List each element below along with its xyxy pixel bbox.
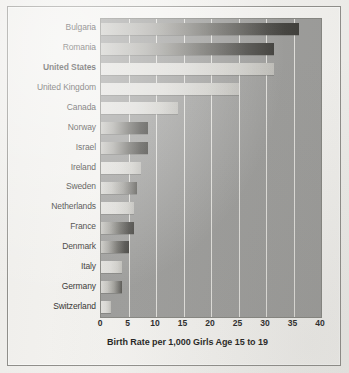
figure-page: BulgariaRomaniaUnited StatesUnited Kingd… [0,0,349,373]
category-label: Israel [0,143,96,152]
bar-row [101,281,122,293]
x-tick-label: 35 [288,319,297,328]
x-tick-label: 10 [150,319,159,328]
bar-row [101,182,137,194]
category-label: Germany [0,282,96,291]
bar-row [101,102,178,114]
x-tick-label: 20 [205,319,214,328]
x-tick-label: 15 [178,319,187,328]
category-label: Ireland [0,163,96,172]
bar-row [101,241,129,253]
bar-row [101,23,299,35]
x-tick-label: 30 [260,319,269,328]
bar [101,301,111,313]
bar-row [101,83,239,95]
category-label: Switzerland [0,302,96,311]
bar [101,83,239,95]
bar-series [101,19,321,317]
category-label: Bulgaria [0,23,96,32]
bar-row [101,162,141,174]
category-label: Norway [0,123,96,132]
bar-row [101,43,274,55]
bar [101,43,274,55]
category-label: Denmark [0,242,96,251]
category-label: United States [0,63,96,72]
bar-chart: BulgariaRomaniaUnited StatesUnited Kingd… [0,0,349,373]
category-label: United Kingdom [0,83,96,92]
bar [101,202,134,214]
category-label: Italy [0,262,96,271]
x-axis-title: Birth Rate per 1,000 Girls Age 15 to 19 [0,337,349,347]
plot-area [100,18,322,318]
bar [101,23,299,35]
x-tick-label: 0 [98,319,103,328]
bar [101,122,148,134]
category-label: Romania [0,43,96,52]
x-tick-label: 5 [125,319,130,328]
bar [101,182,137,194]
bar [101,222,134,234]
bar-row [101,142,148,154]
bar [101,281,122,293]
bar-row [101,63,274,75]
bar-row [101,301,111,313]
bar-row [101,202,134,214]
category-axis-labels: BulgariaRomaniaUnited StatesUnited Kingd… [0,18,96,316]
bar [101,102,178,114]
x-tick-label: 25 [233,319,242,328]
category-label: Netherlands [0,202,96,211]
category-label: Canada [0,103,96,112]
bar [101,162,141,174]
x-tick-label: 40 [315,319,324,328]
bar-row [101,122,148,134]
bar [101,241,129,253]
bar-row [101,261,122,273]
value-axis-ticks: 0510152025303540 [100,319,320,331]
category-label: France [0,222,96,231]
bar [101,142,148,154]
bar-row [101,222,134,234]
category-label: Sweden [0,182,96,191]
bar [101,261,122,273]
bar [101,63,274,75]
